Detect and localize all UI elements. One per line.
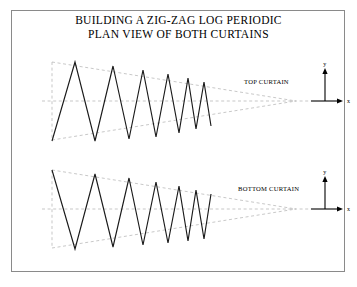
y-axis-arrowhead xyxy=(322,68,327,74)
zigzag-trace xyxy=(52,170,211,249)
curtain-label: TOP CURTAIN xyxy=(244,78,289,85)
x-axis-arrowhead xyxy=(337,206,343,211)
x-axis-arrowhead xyxy=(337,98,343,103)
y-axis-arrowhead xyxy=(322,176,327,182)
top-curtain: TOP CURTAINxy xyxy=(42,61,350,141)
zigzag-trace xyxy=(52,62,211,141)
y-axis-label: y xyxy=(323,169,326,175)
y-axis-label: y xyxy=(323,61,326,67)
zigzag-diagram: TOP CURTAINxyBOTTOM CURTAINxy xyxy=(0,0,357,287)
bottom-curtain: BOTTOM CURTAINxy xyxy=(42,169,350,249)
x-axis-label: x xyxy=(347,98,350,104)
curtain-label: BOTTOM CURTAIN xyxy=(238,185,299,192)
x-axis-label: x xyxy=(347,206,350,212)
curtain-panels: TOP CURTAINxyBOTTOM CURTAINxy xyxy=(42,61,350,249)
